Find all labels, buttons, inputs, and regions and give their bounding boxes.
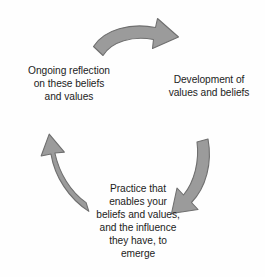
arrow-top-icon bbox=[94, 19, 179, 56]
stage-label-development: Development of values and beliefs bbox=[155, 73, 263, 99]
arrow-left-icon bbox=[38, 130, 89, 217]
stage-label-reflection: Ongoing reflection on these beliefs and … bbox=[8, 64, 130, 103]
arrow-top-group bbox=[94, 19, 179, 56]
cycle-diagram: Ongoing reflection on these beliefs and … bbox=[0, 0, 265, 277]
arrow-left-group bbox=[38, 130, 89, 217]
stage-label-practice: Practice that enables your beliefs and v… bbox=[83, 182, 193, 260]
